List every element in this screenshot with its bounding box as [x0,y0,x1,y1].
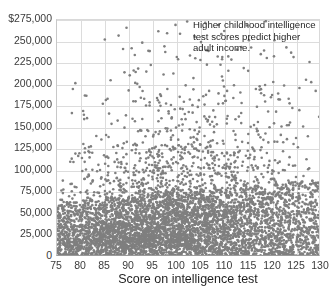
y-axis-tick-label: 250,000 [0,34,52,46]
annotation-line: Higher childhood intelligence [193,19,319,31]
y-axis-tick-label: $275,000 [0,12,52,24]
annotation-line: test scores predict higher [193,31,319,43]
x-axis-tick-label: 130 [300,259,331,271]
y-axis-tick-label: 100,000 [0,163,52,175]
plot-area [56,19,320,256]
scatter-chart: 025,00050,00075,000100,000125,000150,000… [0,0,331,295]
y-axis-tick-label: 175,000 [0,98,52,110]
scatter-points-canvas [57,20,320,256]
annotation-line: adult income. [193,42,319,54]
y-axis-tick-label: 125,000 [0,141,52,153]
x-axis-title: Score on intelligence test [56,272,320,286]
y-axis-tick-label: 225,000 [0,55,52,67]
chart-annotation: Higher childhood intelligencetest scores… [193,19,319,54]
scatter-points-layer [57,20,319,255]
y-axis-tick-label: 150,000 [0,120,52,132]
y-axis-tick-label: 75,000 [0,184,52,196]
y-axis-tick-label: 25,000 [0,227,52,239]
y-axis-tick-label: 200,000 [0,77,52,89]
y-axis-tick-label: 50,000 [0,206,52,218]
